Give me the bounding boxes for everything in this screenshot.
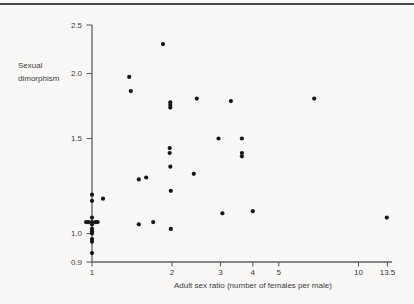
data-point xyxy=(168,146,172,150)
data-point xyxy=(90,199,94,203)
data-point xyxy=(169,227,173,231)
data-point xyxy=(168,106,172,110)
y-tick-label: 1.5 xyxy=(71,134,83,143)
y-axis-label-line1: Sexual xyxy=(18,59,59,72)
data-point xyxy=(90,251,94,255)
y-tick-label: 2.5 xyxy=(71,21,83,30)
y-axis-label: Sexual dimorphism xyxy=(18,59,59,85)
x-axis-label: Adult sex ratio (number of females per m… xyxy=(174,281,332,290)
data-point xyxy=(96,220,100,224)
x-tick-label: 5 xyxy=(277,268,282,277)
x-tick-label: 13.5 xyxy=(380,268,396,277)
scatter-chart: 0.91.01.52.02.5123451013.5 xyxy=(0,0,414,304)
data-point xyxy=(90,193,94,197)
x-tick-label: 4 xyxy=(251,268,256,277)
data-point xyxy=(192,172,196,176)
x-tick-label: 2 xyxy=(170,268,175,277)
data-point xyxy=(144,175,148,179)
x-tick-label: 10 xyxy=(354,268,363,277)
data-point xyxy=(137,222,141,226)
data-point xyxy=(312,97,316,101)
data-point xyxy=(129,89,133,93)
data-point xyxy=(90,231,94,235)
x-tick-label: 3 xyxy=(218,268,223,277)
data-point xyxy=(90,222,94,226)
data-point xyxy=(385,216,389,220)
y-tick-label: 1.0 xyxy=(71,229,83,238)
data-point xyxy=(161,42,165,46)
data-point xyxy=(168,165,172,169)
data-point xyxy=(240,154,244,158)
data-point xyxy=(168,151,172,155)
data-point xyxy=(229,99,233,103)
data-point xyxy=(195,97,199,101)
data-point xyxy=(220,211,224,215)
data-point xyxy=(90,240,94,244)
data-point xyxy=(251,209,255,213)
data-point xyxy=(216,136,220,140)
data-point xyxy=(101,197,105,201)
y-tick-label: 0.9 xyxy=(71,258,83,267)
data-point xyxy=(90,216,94,220)
data-point xyxy=(240,136,244,140)
y-tick-label: 2.0 xyxy=(71,69,83,78)
x-tick-label: 1 xyxy=(90,268,95,277)
data-point xyxy=(127,75,131,79)
y-axis-label-line2: dimorphism xyxy=(18,72,59,85)
figure-page: 0.91.01.52.02.5123451013.5 Sexual dimorp… xyxy=(0,0,414,304)
data-point xyxy=(169,189,173,193)
data-point xyxy=(151,220,155,224)
data-point xyxy=(137,177,141,181)
